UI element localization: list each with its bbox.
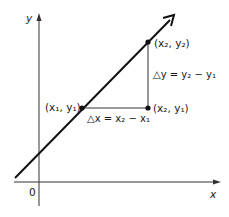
y-axis-label: y bbox=[26, 13, 32, 24]
point-label-x1-y1: (x₁, y₁) bbox=[45, 102, 81, 113]
origin-label: 0 bbox=[29, 187, 36, 198]
delta-x-label: △x = x₂ − x₁ bbox=[87, 114, 150, 124]
x-axis-arrow-icon bbox=[213, 180, 221, 185]
point-x2-y2 bbox=[145, 39, 150, 44]
y-axis-arrow-icon bbox=[37, 13, 42, 21]
x-axis-label: x bbox=[210, 189, 216, 200]
point-x2-y1 bbox=[145, 105, 150, 110]
point-label-x2-y1: (x₂, y₁) bbox=[153, 103, 189, 114]
delta-y-label: △y = y₂ − y₁ bbox=[153, 70, 216, 80]
slope-diagram: y x 0 (x₁, y₁) (x₂, y₂) (x₂, y₁) △x = x₂… bbox=[0, 0, 229, 217]
diagram-canvas bbox=[0, 0, 229, 217]
point-label-x2-y2: (x₂, y₂) bbox=[154, 38, 190, 49]
